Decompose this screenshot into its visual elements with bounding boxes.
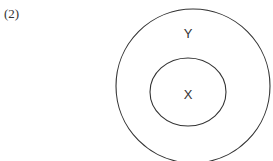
venn-diagram: Y X	[0, 0, 273, 161]
outer-set-label: Y	[184, 26, 193, 41]
inner-set-label: X	[184, 87, 193, 102]
inner-set-x: X	[150, 58, 226, 126]
outer-set-y: Y	[116, 9, 270, 161]
outer-circle	[116, 9, 270, 161]
